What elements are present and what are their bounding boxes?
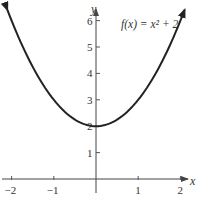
chart-container: −2−112123456 f(x) = x² + 2 x y	[0, 0, 200, 199]
function-label: f(x) = x² + 2	[121, 18, 179, 31]
x-axis-label: x	[189, 174, 196, 188]
y-tick-label: 4	[87, 67, 93, 79]
y-tick-label: 5	[87, 41, 93, 53]
x-tick-label: 2	[177, 184, 183, 196]
x-tick-label: −1	[47, 184, 59, 196]
y-tick-label: 3	[87, 94, 93, 106]
y-axis-label: y	[90, 2, 97, 16]
axes	[2, 9, 188, 193]
y-tick-label: 6	[87, 15, 93, 27]
parabola-chart: −2−112123456 f(x) = x² + 2 x y	[0, 0, 200, 199]
y-tick-label: 1	[87, 147, 93, 159]
x-tick-label: 1	[135, 184, 141, 196]
x-tick-label: −2	[5, 184, 17, 196]
ticks: −2−112123456	[5, 15, 183, 196]
